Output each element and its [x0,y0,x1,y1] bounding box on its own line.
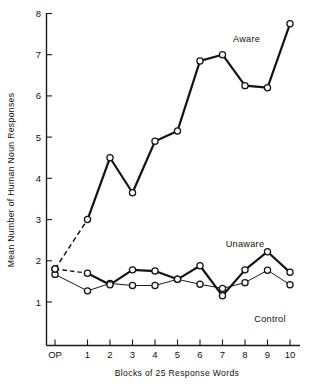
y-tick-label: 4 [36,173,41,184]
data-point [197,281,203,287]
data-point [287,269,293,275]
x-tick-label: 7 [220,349,225,360]
data-point [264,267,270,273]
y-axis-ticks [47,14,53,303]
data-point [174,128,180,134]
series-label-unaware: Unaware [226,239,265,249]
data-point [264,249,270,255]
data-point [197,58,203,64]
data-point [107,155,113,161]
x-axis-tick-labels: OP 1 2 3 4 5 6 7 8 9 10 [48,349,295,360]
x-tick-label: 5 [175,349,180,360]
x-tick-label: 8 [242,349,247,360]
y-tick-label: 1 [36,297,41,308]
x-axis-ticks [55,340,290,346]
data-point [219,293,225,299]
y-tick-label: 8 [36,8,41,19]
line-chart-svg: 8 7 6 5 4 3 2 1 OP 1 2 3 [0,0,311,388]
chart-figure: 8 7 6 5 4 3 2 1 OP 1 2 3 [0,0,311,388]
x-tick-label: 4 [152,349,157,360]
data-point [84,216,90,222]
data-point [152,138,158,144]
data-point [242,280,248,286]
data-point [242,83,248,89]
data-point [219,52,225,58]
x-tick-label: 6 [197,349,202,360]
x-tick-label: 9 [265,349,270,360]
data-point [287,282,293,288]
data-point [152,268,158,274]
y-tick-label: 6 [36,90,41,101]
data-point [84,288,90,294]
x-tick-label: 3 [130,349,135,360]
data-point [129,267,135,273]
y-tick-label: 2 [36,255,41,266]
data-point [129,282,135,288]
series-label-aware: Aware [233,34,260,44]
y-axis-tick-labels: 8 7 6 5 4 3 2 1 [36,8,41,308]
data-point [107,282,113,288]
data-point [287,21,293,27]
data-point [52,266,58,272]
y-tick-label: 5 [36,132,41,143]
series-aware [52,21,293,272]
x-tick-label: 10 [285,349,296,360]
y-axis-title: Mean Number of Human Noun Responses [6,93,16,268]
series-label-control: Control [254,314,285,324]
y-tick-label: 3 [36,214,41,225]
data-point [219,285,225,291]
x-tick-label: 2 [107,349,112,360]
data-point [152,282,158,288]
data-point [242,267,248,273]
data-point [129,190,135,196]
data-point [174,276,180,282]
data-point [197,263,203,269]
data-point [264,85,270,91]
x-tick-label: OP [48,349,62,360]
y-tick-label: 7 [36,49,41,60]
data-point [84,270,90,276]
x-axis-title: Blocks of 25 Response Words [115,368,239,378]
x-tick-label: 1 [85,349,90,360]
